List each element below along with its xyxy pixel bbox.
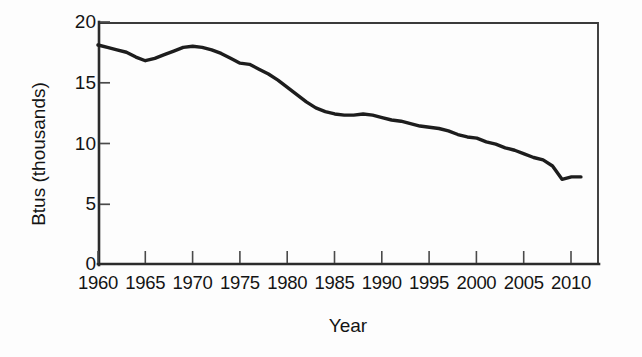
chart-screenshot: 20 15 10 5 0 1960 1965 1970 1975 1980 19… <box>0 0 642 357</box>
y-tick-label: 5 <box>85 194 96 214</box>
y-tick-label-group: 20 15 10 5 0 <box>56 0 96 357</box>
y-tick-label: 0 <box>85 254 96 274</box>
plot-frame <box>98 23 598 264</box>
x-tick-label: 2005 <box>504 272 544 294</box>
line-chart-figure: 20 15 10 5 0 1960 1965 1970 1975 1980 19… <box>0 0 642 357</box>
x-tick-label: 2000 <box>456 272 496 294</box>
x-tick-label: 1970 <box>173 272 213 294</box>
x-tick-label: 1985 <box>315 272 355 294</box>
x-tick-label: 1990 <box>362 272 402 294</box>
chart-canvas <box>0 0 642 357</box>
x-tick-label: 1965 <box>125 272 165 294</box>
x-tick-label: 1975 <box>220 272 260 294</box>
x-tick-marks <box>98 251 571 263</box>
x-tick-label-group: 1960 1965 1970 1975 1980 1985 1990 1995 … <box>98 272 598 298</box>
x-tick-label: 1960 <box>78 272 118 294</box>
y-axis-title: Btus (thousands) <box>28 54 50 254</box>
x-tick-label: 1995 <box>409 272 449 294</box>
series-line-btus <box>98 45 581 179</box>
x-tick-label: 1980 <box>267 272 307 294</box>
y-tick-label: 10 <box>75 134 96 154</box>
y-tick-label: 15 <box>75 73 96 93</box>
y-tick-label: 20 <box>75 12 96 32</box>
x-axis-title: Year <box>98 315 598 337</box>
x-tick-label: 2010 <box>551 272 591 294</box>
